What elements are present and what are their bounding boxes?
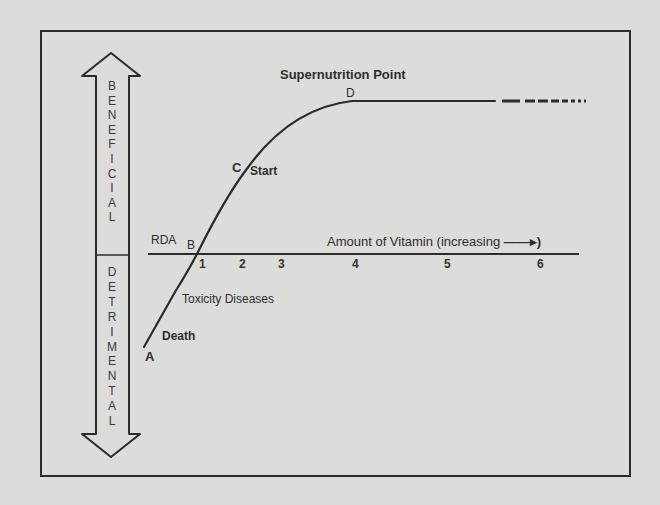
point-a-label: A — [145, 349, 154, 364]
x-tick-1: 1 — [199, 257, 206, 271]
x-tick-6: 6 — [537, 257, 544, 271]
letter: L — [102, 414, 122, 429]
letter: M — [102, 340, 122, 355]
x-tick-5: 5 — [444, 257, 451, 271]
letter: N — [102, 108, 122, 123]
letter: B — [102, 79, 122, 94]
death-label: Death — [162, 329, 195, 343]
letter: T — [102, 295, 122, 310]
x-tick-2: 2 — [239, 257, 246, 271]
letter: I — [102, 325, 122, 340]
letter: E — [102, 280, 122, 295]
letter: T — [102, 384, 122, 399]
start-label: Start — [250, 164, 277, 178]
letter: A — [102, 196, 122, 211]
point-c-label: C — [232, 160, 241, 175]
x-axis-title-text: Amount of Vitamin (increasing — [327, 234, 500, 249]
toxicity-diseases-label: Toxicity Diseases — [182, 292, 274, 306]
letter: A — [102, 399, 122, 414]
letter: E — [102, 123, 122, 138]
dose-response-curve — [144, 101, 495, 347]
letter: F — [102, 137, 122, 152]
supernutrition-point-label: Supernutrition Point — [280, 67, 406, 82]
x-tick-4: 4 — [352, 257, 359, 271]
letter: E — [102, 354, 122, 369]
detrimental-label: D E T R I M E N T A L — [102, 265, 122, 429]
rda-label: RDA — [151, 233, 176, 247]
letter: E — [102, 94, 122, 109]
letter: I — [102, 152, 122, 167]
point-d-label: D — [346, 86, 355, 100]
x-axis-title: Amount of Vitamin (increasing ——▸) — [327, 234, 541, 249]
letter: I — [102, 181, 122, 196]
letter: D — [102, 265, 122, 280]
x-tick-3: 3 — [278, 257, 285, 271]
letter: R — [102, 310, 122, 325]
letter: L — [102, 210, 122, 225]
point-b-label: B — [187, 238, 195, 252]
letter: N — [102, 369, 122, 384]
x-axis-arrow-icon: ——▸) — [504, 234, 541, 249]
beneficial-label: B E N E F I C I A L — [102, 79, 122, 225]
letter: C — [102, 167, 122, 182]
